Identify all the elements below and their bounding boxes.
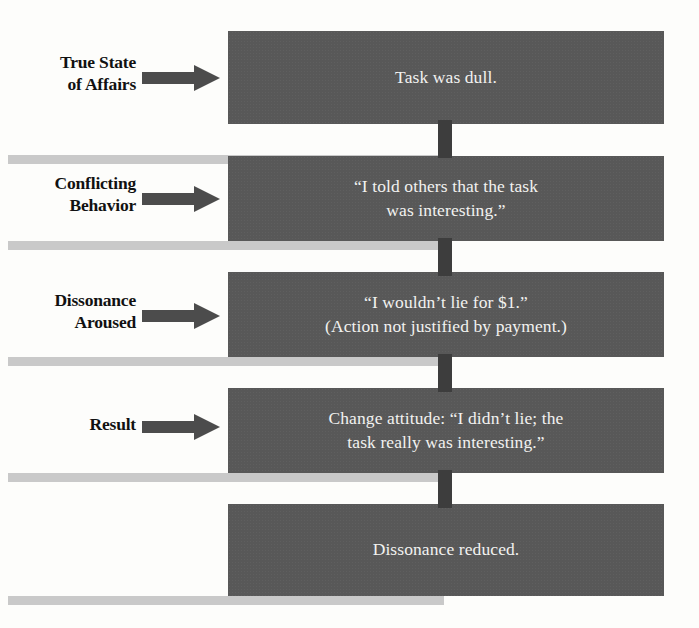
stage-box-result-change-attitude: Change attitude: “I didn’t lie; the task… <box>228 388 664 473</box>
stage-label-conflicting-behavior: Conflicting Behavior <box>8 172 136 217</box>
stage-label-line: of Affairs <box>8 73 136 95</box>
arrow-head <box>194 65 220 91</box>
stage-box-text: “I wouldn’t lie for $1.” (Action not jus… <box>311 291 581 339</box>
stage-box-wrap-1: Task was dull. <box>228 31 664 124</box>
connector-bar-1-2 <box>438 120 452 158</box>
stage-box-dissonance-aroused-quote: “I wouldn’t lie for $1.” (Action not jus… <box>228 272 664 357</box>
stage-box-text: Task was dull. <box>381 66 511 90</box>
stage-label-line: Aroused <box>8 311 136 333</box>
arrow-head <box>194 303 220 329</box>
box-text-line: Change attitude: “I didn’t lie; the <box>329 407 564 431</box>
box-text-line: (Action not justified by payment.) <box>325 315 567 339</box>
arrow-shaft <box>142 72 197 84</box>
connector-bar-4-5 <box>438 470 452 508</box>
box-shadow <box>8 357 444 366</box>
stage-label-line: True State <box>8 51 136 73</box>
stage-box-wrap-4: Change attitude: “I didn’t lie; the task… <box>228 388 664 473</box>
box-text-line: task really was interesting.” <box>329 431 564 455</box>
stage-label-result: Result <box>8 413 136 435</box>
box-shadow <box>8 241 444 250</box>
right-arrow-icon <box>142 65 220 91</box>
arrow-shaft <box>142 193 197 205</box>
stage-box-text: “I told others that the task was interes… <box>340 175 552 223</box>
stage-box-text: Change attitude: “I didn’t lie; the task… <box>315 407 578 455</box>
stage-label-line: Result <box>8 413 136 435</box>
box-shadow <box>8 596 444 605</box>
arrow-head <box>194 414 220 440</box>
stage-box-wrap-5: Dissonance reduced. <box>228 504 664 596</box>
stage-box-conflicting-behavior-quote: “I told others that the task was interes… <box>228 156 664 241</box>
connector-bar-2-3 <box>438 238 452 276</box>
box-text-line: was interesting.” <box>354 199 538 223</box>
stage-box-wrap-3: “I wouldn’t lie for $1.” (Action not jus… <box>228 272 664 357</box>
stage-box-task-was-dull: Task was dull. <box>228 31 664 124</box>
arrow-shaft <box>142 310 197 322</box>
arrow-head <box>194 186 220 212</box>
stage-box-wrap-2: “I told others that the task was interes… <box>228 156 664 241</box>
right-arrow-icon <box>142 414 220 440</box>
box-text-line: Dissonance reduced. <box>373 538 520 562</box>
stage-box-dissonance-reduced: Dissonance reduced. <box>228 504 664 596</box>
box-text-line: “I told others that the task <box>354 175 538 199</box>
stage-label-true-state-of-affairs: True State of Affairs <box>8 51 136 96</box>
stage-box-text: Dissonance reduced. <box>359 538 534 562</box>
stage-label-dissonance-aroused: Dissonance Aroused <box>8 289 136 334</box>
stage-label-line: Conflicting <box>8 172 136 194</box>
box-shadow <box>8 473 444 482</box>
box-text-line: Task was dull. <box>395 66 497 90</box>
stage-label-line: Behavior <box>8 194 136 216</box>
flow-diagram: True State of Affairs Task was dull. Con… <box>0 0 699 628</box>
arrow-shaft <box>142 421 197 433</box>
stage-label-line: Dissonance <box>8 289 136 311</box>
right-arrow-icon <box>142 303 220 329</box>
right-arrow-icon <box>142 186 220 212</box>
connector-bar-3-4 <box>438 354 452 392</box>
box-text-line: “I wouldn’t lie for $1.” <box>325 291 567 315</box>
